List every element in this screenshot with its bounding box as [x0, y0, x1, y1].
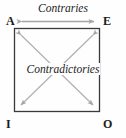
corner-label-o: O	[103, 118, 112, 130]
corner-label-i: I	[6, 118, 11, 130]
square-of-opposition-diagram: Contraries Contradictories A E I O	[0, 0, 126, 138]
relation-label-contradictories: Contradictories	[0, 63, 126, 76]
corner-label-a: A	[6, 15, 15, 27]
relation-label-contradictories-text: Contradictories	[26, 63, 101, 75]
corner-label-e: E	[103, 15, 111, 27]
